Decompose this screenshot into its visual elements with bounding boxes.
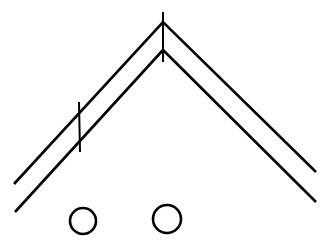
background (0, 0, 329, 244)
diagram-canvas (0, 0, 329, 244)
diagram-svg (0, 0, 329, 244)
left-tick-mark (79, 102, 80, 152)
